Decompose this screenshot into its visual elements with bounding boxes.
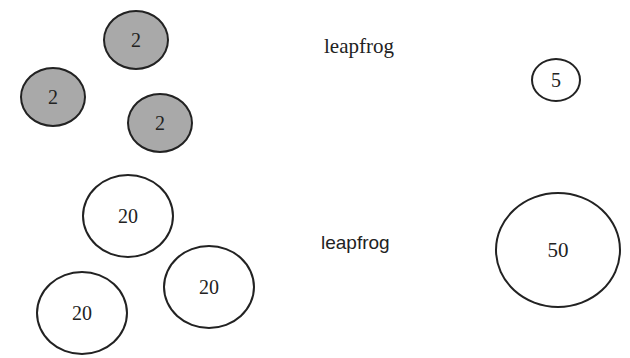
large-circle-2: 20 [163,245,255,329]
leapfrog-label-bottom: leapfrog [321,232,390,254]
small-circle-2: 2 [20,67,86,127]
result-circle-large-value: 50 [548,238,569,263]
large-circle-2-value: 20 [199,276,219,299]
result-circle-small: 5 [531,58,581,102]
large-circle-1-value: 20 [118,205,138,228]
small-circle-1-value: 2 [131,29,141,52]
small-circle-1: 2 [103,10,169,70]
result-circle-large: 50 [495,192,621,308]
result-circle-small-value: 5 [551,69,561,92]
small-circle-3: 2 [127,93,193,153]
small-circle-3-value: 2 [155,112,165,135]
leapfrog-diagram: 2 2 2 leapfrog 5 20 20 20 leapfrog 50 [0,0,630,358]
large-circle-3: 20 [36,271,128,355]
large-circle-3-value: 20 [72,302,92,325]
small-circle-2-value: 2 [48,86,58,109]
leapfrog-label-top: leapfrog [324,34,394,59]
large-circle-1: 20 [82,174,174,258]
